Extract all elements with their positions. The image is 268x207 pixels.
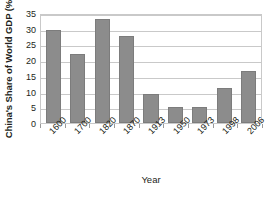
bars-layer xyxy=(41,15,261,123)
bar-slot xyxy=(237,15,261,123)
y-axis-tick-label: 5 xyxy=(31,103,36,113)
y-axis-tick-label: 30 xyxy=(26,25,36,35)
bar-1870[interactable] xyxy=(119,36,134,123)
y-axis-tick-label: 10 xyxy=(26,88,36,98)
bar-slot xyxy=(163,15,187,123)
y-axis-tick-label: 0 xyxy=(31,119,36,129)
x-axis-title: Year xyxy=(40,174,262,185)
bar-slot xyxy=(188,15,212,123)
y-axis-tick-labels: 05101520253035 xyxy=(18,14,38,124)
bar-1820[interactable] xyxy=(95,19,110,123)
y-axis-title-text: China's Share of World GDP (%) xyxy=(4,0,15,138)
bar-1700[interactable] xyxy=(70,54,85,123)
y-axis-title: China's Share of World GDP (%) xyxy=(0,0,18,135)
y-axis-tick-label: 25 xyxy=(26,40,36,50)
y-axis-tick-label: 15 xyxy=(26,72,36,82)
bar-slot xyxy=(114,15,138,123)
y-axis-tick-label: 35 xyxy=(26,9,36,19)
bar-1600[interactable] xyxy=(46,30,61,123)
bar-slot xyxy=(65,15,89,123)
x-axis-tick-labels: 160017001820187019131950197319982006 xyxy=(40,129,262,169)
bar-slot xyxy=(212,15,236,123)
bar-2006[interactable] xyxy=(241,71,256,123)
x-axis-tick xyxy=(40,124,41,128)
bar-chart-figure: China's Share of World GDP (%) 051015202… xyxy=(0,0,268,207)
plot-area xyxy=(40,14,262,124)
bar-slot xyxy=(139,15,163,123)
y-axis-tick-label: 20 xyxy=(26,56,36,66)
bar-slot xyxy=(90,15,114,123)
bar-slot xyxy=(41,15,65,123)
